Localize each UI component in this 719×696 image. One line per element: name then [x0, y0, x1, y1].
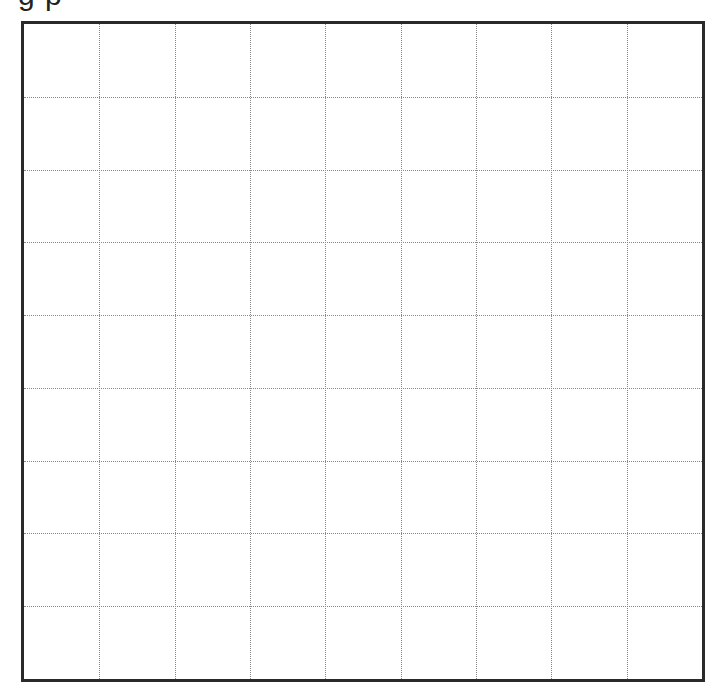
grid-horizontal-line	[24, 170, 702, 171]
grid-vertical-line	[99, 24, 100, 679]
grid-horizontal-line	[24, 242, 702, 243]
grid-vertical-line	[325, 24, 326, 679]
grid-vertical-line	[551, 24, 552, 679]
grid-horizontal-line	[24, 315, 702, 316]
grid-vertical-line	[476, 24, 477, 679]
grid-board[interactable]	[21, 21, 705, 682]
grid-horizontal-line	[24, 606, 702, 607]
grid-horizontal-line	[24, 461, 702, 462]
grid-horizontal-line	[24, 388, 702, 389]
grid-vertical-line	[401, 24, 402, 679]
clipped-title-text: g p	[18, 0, 63, 12]
grid-vertical-line	[175, 24, 176, 679]
grid-vertical-line	[250, 24, 251, 679]
grid-vertical-line	[627, 24, 628, 679]
grid-horizontal-line	[24, 533, 702, 534]
grid-horizontal-line	[24, 97, 702, 98]
